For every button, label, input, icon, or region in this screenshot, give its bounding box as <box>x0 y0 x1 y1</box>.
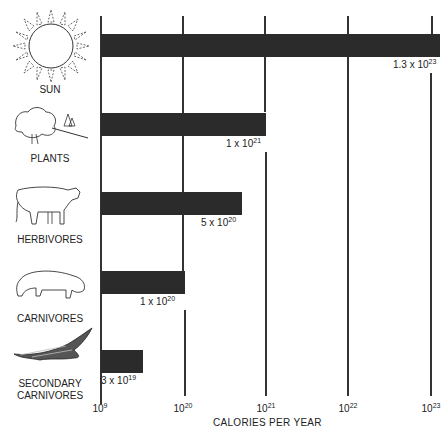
x-tick-1e21: 1021 <box>257 402 276 414</box>
value-label-plants: 1 x 1021 <box>226 137 261 149</box>
category-label-carnivores: CARNIVORES <box>0 313 100 325</box>
secondary-carnivore-eagle-icon <box>12 326 96 366</box>
value-label-carnivores: 1 x 1020 <box>140 295 175 307</box>
bar-secondary-carnivores <box>101 350 143 373</box>
value-label-sun: 1.3 x 1023 <box>393 58 436 70</box>
gridline-1e23-lower <box>430 73 432 396</box>
gridline-1e21 <box>264 16 266 112</box>
category-label-secondary-carnivores: SECONDARY CARNIVORES <box>0 378 100 402</box>
category-label-sun: SUN <box>0 84 100 96</box>
gridline-1e20-lower <box>184 310 186 396</box>
bar-plants <box>101 113 266 136</box>
bar-herbivores <box>101 192 242 215</box>
value-label-herbivores: 5 x 1020 <box>201 216 236 228</box>
x-tick-1e23: 1023 <box>422 402 441 414</box>
x-axis-label: CALORIES PER YEAR <box>213 417 322 428</box>
category-label-herbivores: HERBIVORES <box>0 234 100 246</box>
herbivore-cow-icon <box>12 182 86 228</box>
sun-icon <box>10 10 92 82</box>
gridline-1e23 <box>431 16 433 34</box>
category-label-plants: PLANTS <box>0 153 100 165</box>
gridline-1e22 <box>347 16 349 396</box>
x-tick-1e22: 1022 <box>339 402 358 414</box>
bar-sun <box>101 34 440 57</box>
category-label-secondary-line2: CARNIVORES <box>0 390 100 402</box>
value-label-secondary-carnivores: 3 x 1019 <box>101 374 136 386</box>
x-tick-1e20: 1020 <box>174 402 193 414</box>
category-label-secondary-line1: SECONDARY <box>0 378 100 390</box>
bar-carnivores <box>101 271 185 294</box>
plant-icon <box>12 104 92 144</box>
carnivore-icon <box>12 266 88 302</box>
x-tick-1e19: 109 <box>92 402 107 414</box>
gridline-1e21-lower <box>265 152 267 396</box>
